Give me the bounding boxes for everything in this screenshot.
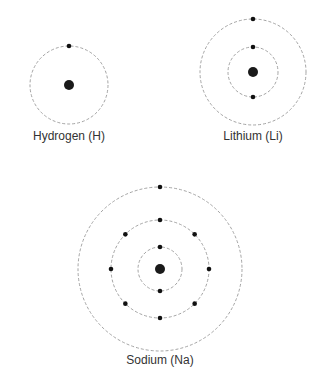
electron [207, 267, 212, 272]
nucleus [64, 80, 74, 90]
electron [251, 17, 256, 22]
atom-hydrogen [30, 44, 108, 124]
electron [158, 185, 163, 190]
label-lithium: Lithium (Li) [223, 129, 282, 143]
atom-diagram [0, 0, 320, 382]
electron [109, 267, 114, 272]
atom-sodium [78, 185, 242, 351]
electron [158, 316, 163, 321]
electron [123, 301, 128, 306]
electron [158, 218, 163, 223]
electron [67, 44, 72, 49]
label-hydrogen: Hydrogen (H) [33, 129, 105, 143]
electron [192, 232, 197, 237]
electron [251, 95, 256, 100]
electron [251, 45, 256, 50]
electron [192, 301, 197, 306]
electron [158, 245, 163, 250]
electron [158, 289, 163, 294]
electron [123, 232, 128, 237]
label-sodium: Sodium (Na) [126, 353, 193, 367]
atom-lithium [200, 17, 306, 125]
nucleus [248, 67, 258, 77]
nucleus [155, 264, 165, 274]
